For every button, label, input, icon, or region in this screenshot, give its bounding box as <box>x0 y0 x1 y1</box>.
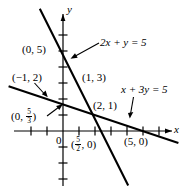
paren-close-5-2-0: , 0) <box>81 138 96 150</box>
origin-label: 0 <box>56 135 62 146</box>
equation-label-line1: 2x + y = 5 <box>100 37 147 48</box>
point-label-0-5-over-3: (0, 53) <box>11 108 36 125</box>
point-label-5-over-2-0: (52, 0) <box>71 136 96 153</box>
x-axis <box>14 127 172 136</box>
coordinate-graph-figure: y x 0 (0, 5) 2x + y = 5 (−1, 2) (1, 3) x… <box>0 0 189 195</box>
point-label-2-1: (2, 1) <box>93 100 117 111</box>
x-axis-arrow-icon <box>165 129 172 134</box>
paren-close-0-5-3: ) <box>32 110 36 122</box>
leader-arrow-line2-icon <box>128 97 134 119</box>
paren-open-5-2-0: ( <box>71 138 75 150</box>
x-axis-label: x <box>174 124 179 135</box>
y-axis-arrow-icon <box>61 14 66 21</box>
equation-line1-text: 2x + y = 5 <box>100 36 147 48</box>
leader-arrow-point-0-5-3-icon <box>47 104 63 116</box>
y-axis <box>59 14 68 186</box>
graph-canvas <box>0 0 189 195</box>
equation-label-line2: x + 3y = 5 <box>121 84 168 95</box>
y-axis-label: y <box>67 4 72 15</box>
point-label-5-0: (5, 0) <box>124 136 148 147</box>
point-label-neg1-2: (−1, 2) <box>12 72 42 83</box>
point-label-0-5: (0, 5) <box>22 44 46 55</box>
equation-line2-text: x + 3y = 5 <box>121 83 168 95</box>
paren-open-0-5-3: (0, <box>11 110 26 122</box>
point-label-1-3: (1, 3) <box>82 72 106 83</box>
leader-arrow-line1-icon <box>71 43 100 59</box>
